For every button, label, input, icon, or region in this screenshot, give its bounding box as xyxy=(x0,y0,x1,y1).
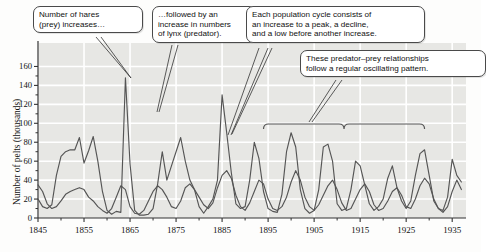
x-tick-label: 1915 xyxy=(351,225,370,235)
x-tick-label: 1865 xyxy=(121,225,140,235)
callout-lynx-increase: …followed by an increase in numbers of l… xyxy=(152,6,256,43)
x-tick-label: 1925 xyxy=(397,225,416,235)
y-tick-label: 40 xyxy=(23,175,32,185)
y-tick-label: 80 xyxy=(23,137,32,147)
callout-oscillating-pattern: These predator–prey relationships follow… xyxy=(300,50,486,77)
y-tick-label: 160 xyxy=(19,61,32,71)
x-tick-label: 1885 xyxy=(213,225,232,235)
y-axis-title: Number of pelts (thousands) xyxy=(12,99,22,205)
y-tick-label: 20 xyxy=(23,194,32,204)
y-tick-label: 0 xyxy=(28,213,32,223)
x-tick-label: 1855 xyxy=(75,225,94,235)
callout-hares-increase: Number of hares (prey) increases… xyxy=(33,6,143,33)
x-tick-label: 1905 xyxy=(305,225,324,235)
x-tick-label: 1875 xyxy=(167,225,186,235)
x-tick-label: 1935 xyxy=(443,225,462,235)
x-tick-label: 1845 xyxy=(29,225,48,235)
x-tick-label: 1895 xyxy=(259,225,278,235)
y-tick-label: 60 xyxy=(23,156,32,166)
callout-population-cycle: Each population cycle consists of an inc… xyxy=(246,6,425,43)
y-tick-label: 140 xyxy=(19,80,32,90)
